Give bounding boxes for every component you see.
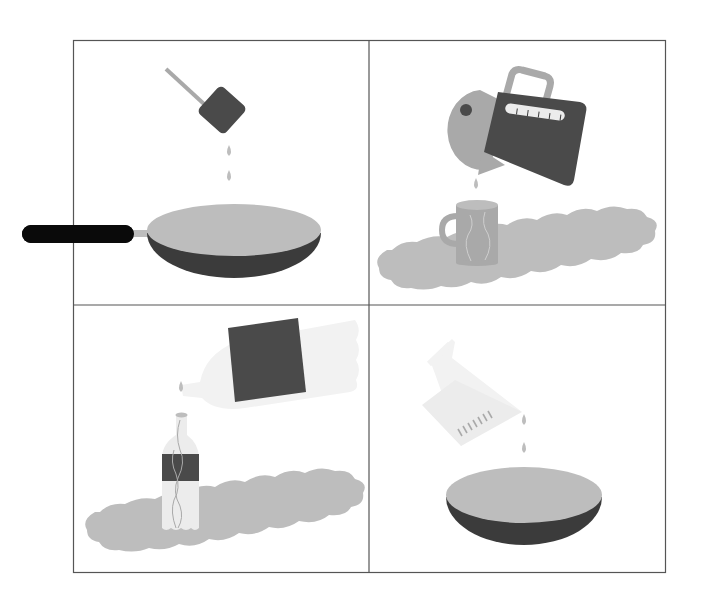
large-bottle-label	[228, 318, 306, 402]
panel-top-left	[22, 69, 321, 278]
mug-rim	[456, 200, 498, 210]
liquid-drop-icon	[522, 414, 526, 425]
liquid-drop-icon	[227, 145, 231, 156]
liquid-drop-icon	[179, 381, 183, 392]
illustration-canvas	[0, 0, 707, 603]
ladle-cup	[197, 85, 248, 136]
mug-body	[456, 205, 498, 263]
puddle-shape	[85, 468, 365, 551]
bowl-surface	[446, 467, 602, 523]
kettle-knob	[460, 104, 472, 116]
puddle-shape	[377, 206, 657, 289]
bottle-cap	[176, 413, 188, 418]
kettle-body	[484, 92, 586, 186]
panel-bottom-right	[422, 339, 602, 545]
pan-surface	[147, 204, 321, 256]
panel-top-right	[377, 70, 657, 290]
bottle-label	[162, 454, 199, 481]
ladle-handle	[166, 69, 204, 104]
liquid-drop-icon	[474, 178, 478, 189]
liquid-drop-icon	[522, 442, 526, 453]
pan-handle-overlay	[22, 225, 134, 243]
liquid-drop-icon	[227, 170, 231, 181]
panel-bottom-left	[85, 318, 365, 552]
